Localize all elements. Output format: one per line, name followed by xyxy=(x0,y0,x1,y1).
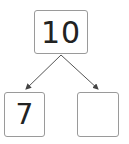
arrow-right xyxy=(61,55,98,89)
part-value-left: 7 xyxy=(16,98,34,131)
arrow-left xyxy=(26,55,61,89)
whole-box: 10 xyxy=(34,10,88,54)
whole-value: 10 xyxy=(41,15,81,50)
part-box-right[interactable] xyxy=(77,92,119,137)
part-box-left: 7 xyxy=(4,92,45,137)
